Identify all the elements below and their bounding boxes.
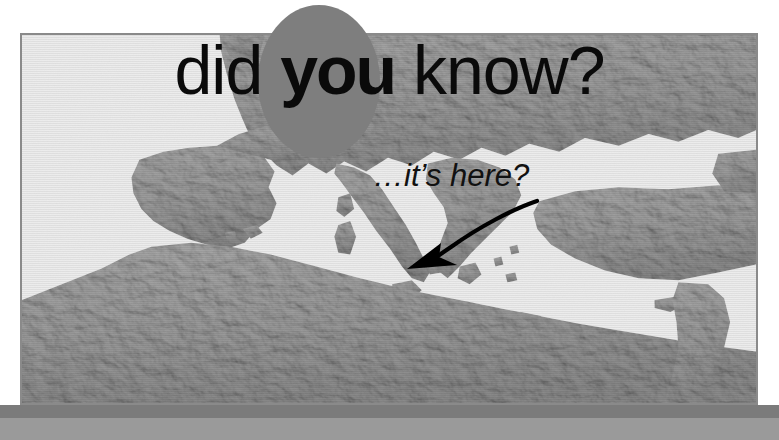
caption-text: …it’s here? [373, 158, 529, 194]
headline: did you know? [0, 36, 779, 104]
headline-part-2: know? [395, 32, 604, 108]
footer-band-dark [0, 405, 779, 418]
headline-emphasis: you [280, 32, 395, 108]
poster-canvas: did you know? …it’s here? [0, 0, 779, 440]
footer-band-light [0, 418, 779, 440]
headline-part-1: did [174, 32, 280, 108]
